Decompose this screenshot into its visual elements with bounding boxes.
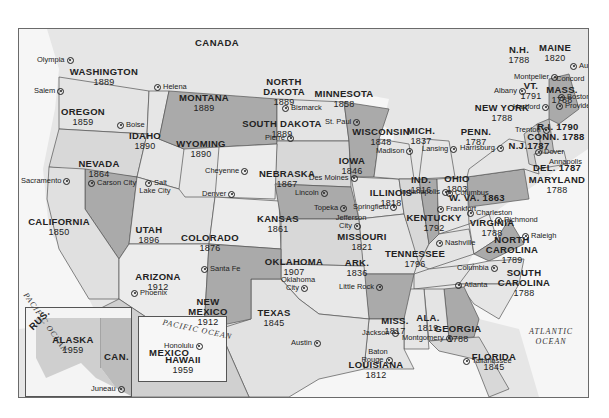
capital-carson-city: Carson City <box>86 179 136 187</box>
state-arkansas: ARK.1836 <box>345 258 369 278</box>
capital-montpelier: Montpelier <box>514 73 560 81</box>
capital-oklahoma-city: Oklahoma City <box>275 276 321 292</box>
label-canada: CANADA <box>195 37 239 48</box>
state-colorado: COLORADO1876 <box>181 233 239 253</box>
capital-dot-icon <box>558 94 565 101</box>
capital-dot-icon <box>353 119 360 126</box>
label-canada-inset: CAN. <box>104 351 129 362</box>
capital-st-paul: St. Paul <box>325 118 362 126</box>
capital-helena: Helena <box>152 83 187 91</box>
capital-dot-icon <box>301 285 308 292</box>
state-alaska: ALASKA1959 <box>52 335 93 355</box>
capital-dot-icon <box>196 343 203 350</box>
capital-juneau: Juneau <box>91 385 127 393</box>
capital-augusta: Augusta <box>568 62 589 70</box>
capital-dot-icon <box>390 204 397 211</box>
capital-dot-icon <box>154 84 161 91</box>
capital-dot-icon <box>406 148 413 155</box>
capital-springfield: Springfield <box>353 203 399 211</box>
capital-dot-icon <box>386 357 393 364</box>
state-utah: UTAH1896 <box>136 225 163 245</box>
capital-montgomery: Montgomery <box>402 334 455 342</box>
capital-cheyenne: Cheyenne <box>205 167 250 175</box>
capital-dot-icon <box>354 223 361 230</box>
capital-concord: Concord <box>556 75 584 83</box>
capital-topeka: Topeka <box>314 204 349 212</box>
capital-santa-fe: Santa Fe <box>199 265 240 273</box>
state-south-carolina: SOUTH CAROLINA1788 <box>494 268 554 298</box>
capital-dot-icon <box>228 191 235 198</box>
capital-dot-icon <box>88 180 95 187</box>
capital-dot-icon <box>392 330 399 337</box>
capital-albany: Albany <box>494 87 528 95</box>
capital-dot-icon <box>201 266 208 273</box>
capital-dot-icon <box>446 335 453 342</box>
state-new-mexico: NEW MEXICO1912 <box>188 297 228 327</box>
capital-boise: Boise <box>115 121 145 129</box>
capital-providence: Providence <box>554 102 589 110</box>
capital-baton-rouge: Baton Rouge <box>361 348 395 364</box>
us-statehood-map: CANADA MEXICO RUS. CAN. PACIFIC OCEAN PA… <box>18 28 589 398</box>
capital-dot-icon <box>467 210 474 217</box>
capital-bismarck: Bismarck <box>280 104 322 112</box>
capital-des-moines: Des Moines <box>309 174 360 182</box>
state-texas: TEXAS1845 <box>257 308 290 328</box>
capital-dot-icon <box>542 104 549 111</box>
capital-dot-icon <box>522 233 529 240</box>
capital-little-rock: Little Rock <box>339 283 385 291</box>
capital-harrisburg: Harrisburg <box>460 144 506 152</box>
state-michigan: MICH.1837 <box>407 126 435 146</box>
capital-dot-icon <box>57 88 64 95</box>
capital-dot-icon <box>67 57 74 64</box>
state-tennessee: TENNESSEE1796 <box>385 249 445 269</box>
capital-dot-icon <box>282 105 289 112</box>
capital-dot-icon <box>351 175 358 182</box>
capital-denver: Denver <box>202 190 237 198</box>
capital-lincoln: Lincoln <box>295 189 330 197</box>
capital-columbia: Columbia <box>457 264 500 272</box>
capital-pierre: Pierre <box>265 134 296 142</box>
state-missouri: MISSOURI1821 <box>337 232 386 252</box>
capital-dot-icon <box>287 135 294 142</box>
capital-dot-icon <box>340 205 347 212</box>
capital-salt-lake-city: Salt Lake City <box>137 179 173 195</box>
capital-raleigh: Raleigh <box>520 232 556 240</box>
state-nebraska: NEBRASKA1867 <box>259 169 315 189</box>
label-atlantic-ocean: ATLANTIC OCEAN <box>529 327 573 347</box>
capital-dot-icon <box>446 190 453 197</box>
capital-dot-icon <box>450 146 457 153</box>
capital-dot-icon <box>117 122 124 129</box>
capital-phoenix: Phoenix <box>129 289 167 297</box>
capital-dot-icon <box>437 206 444 213</box>
state-minnesota: MINNESOTA1858 <box>315 89 374 109</box>
state-maine: MAINE1820 <box>539 43 571 63</box>
capital-dot-icon <box>118 386 125 393</box>
capital-boston: Boston <box>556 93 589 101</box>
capital-richmond: Richmond <box>493 216 538 224</box>
capital-dot-icon <box>495 217 502 224</box>
state-nevada: NEVADA1864 <box>78 159 119 179</box>
capital-dot-icon <box>241 168 248 175</box>
capital-dot-icon <box>145 180 152 187</box>
capital-dot-icon <box>314 340 321 347</box>
capital-dot-icon <box>376 284 383 291</box>
state-oklahoma: OKLAHOMA1907 <box>265 257 323 277</box>
capital-dover: Dover <box>533 148 564 156</box>
capital-olympia: Olympia <box>37 56 76 64</box>
capital-atlanta: Atlanta <box>453 281 487 289</box>
state-idaho: IDAHO1890 <box>129 131 161 151</box>
state-wyoming: WYOMING1890 <box>176 139 226 159</box>
capital-dot-icon <box>436 240 443 247</box>
capital-lansing: Lansing <box>422 145 459 153</box>
state-new-hampshire: N.H.1788 <box>508 45 529 65</box>
state-kentucky: KENTUCKY1792 <box>406 213 461 233</box>
capital-salem: Salem <box>34 87 66 95</box>
capital-tallahassee: Tallahassee <box>461 357 512 365</box>
state-oregon: OREGON1859 <box>61 107 105 127</box>
capital-dot-icon <box>491 265 498 272</box>
capital-dot-icon <box>131 290 138 297</box>
capital-madison: Madison <box>376 147 415 155</box>
capital-sacramento: Sacramento <box>21 177 72 185</box>
capital-dot-icon <box>570 63 577 70</box>
capital-dot-icon <box>63 178 70 185</box>
